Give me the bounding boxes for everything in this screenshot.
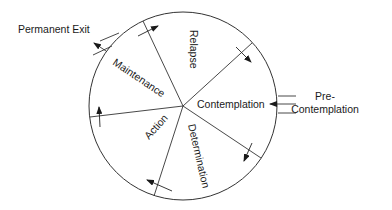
- arrow-relapse-to-contemplation: [236, 47, 251, 62]
- arrow-contemplation-to-determination: [244, 143, 252, 161]
- exit-line-lower: [93, 46, 112, 55]
- stage-label-determination: Determination: [186, 123, 212, 190]
- arrow-action-to-maintenance: [99, 107, 100, 127]
- entry-label-line1: Pre-: [315, 90, 335, 102]
- exit-label: Permanent Exit: [18, 23, 90, 35]
- stage-label-maintenance: Maintenance: [111, 56, 168, 100]
- arrow-maintenance-to-relapse: [138, 26, 158, 36]
- stage-label-relapse: Relapse: [188, 30, 200, 69]
- stage-label-contemplation: Contemplation: [197, 98, 265, 110]
- stage-label-action: Action: [142, 112, 171, 142]
- divider-action-maintenance: [90, 106, 183, 117]
- entry-label-line2: Contemplation: [291, 103, 359, 115]
- stages-of-change-diagram: Relapse Contemplation Determination Acti…: [0, 0, 392, 210]
- exit-arrow: [94, 43, 106, 51]
- arrow-determination-to-action: [147, 180, 172, 191]
